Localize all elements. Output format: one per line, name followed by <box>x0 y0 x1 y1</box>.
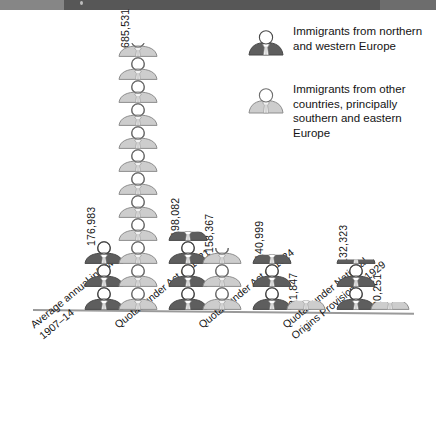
figure-light-partial <box>201 241 243 264</box>
figure-light <box>117 57 159 80</box>
chart-legend: Immigrants from northern and western Eur… <box>246 24 432 154</box>
figure-light <box>117 264 159 287</box>
window-top-bar <box>0 0 436 10</box>
person-bust-dark-icon <box>246 30 286 56</box>
figure-light <box>117 218 159 241</box>
figure-light <box>117 80 159 103</box>
figure-light <box>117 126 159 149</box>
figure-light <box>117 195 159 218</box>
legend-item-other-countries: Immigrants from other countries, princip… <box>246 82 432 140</box>
legend-label: Immigrants from northern and western Eur… <box>293 24 432 53</box>
figure-dark <box>335 264 377 287</box>
figure-light-partial <box>285 287 327 310</box>
legend-item-northern-western-europe: Immigrants from northern and western Eur… <box>246 24 432 68</box>
figure-light <box>117 103 159 126</box>
top-bar-dot-icon <box>80 1 83 5</box>
figure-light <box>117 241 159 264</box>
chart-root: 176,983685,531198,082158,367140,99921,84… <box>0 0 436 447</box>
figure-light-partial <box>369 287 411 310</box>
figure-light <box>201 287 243 310</box>
legend-label: Immigrants from other countries, princip… <box>293 82 432 140</box>
figure-light <box>117 149 159 172</box>
figure-dark-partial <box>167 218 209 241</box>
figure-light <box>117 287 159 310</box>
pictogram-chart-area: 176,983685,531198,082158,367140,99921,84… <box>0 10 436 447</box>
figure-dark <box>251 264 293 287</box>
figure-light <box>201 264 243 287</box>
top-bar-left-segment <box>0 0 64 10</box>
figure-dark-partial <box>335 241 377 264</box>
top-bar-right-segment <box>380 0 436 10</box>
figure-light-partial <box>117 34 159 57</box>
figure-dark-partial <box>251 241 293 264</box>
person-bust-light-icon <box>246 88 286 114</box>
figure-light <box>117 172 159 195</box>
